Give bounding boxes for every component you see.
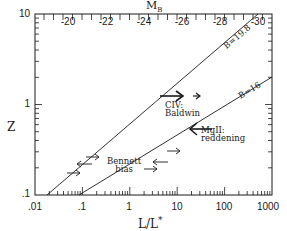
top-axis-label: MB <box>146 1 162 15</box>
y-tick-label: .1 <box>6 189 30 199</box>
annotation-bennett: Bennettbias <box>107 157 141 173</box>
top-tick-label: -30 <box>251 17 265 27</box>
x-tick-label: 100 <box>216 202 233 212</box>
top-tick-label: -20 <box>61 17 75 27</box>
x-tick-label: .01 <box>28 202 42 212</box>
y-axis-label: Z <box>7 122 15 132</box>
x-tick-label: 1000 <box>257 202 279 212</box>
x-tick-label: 1 <box>126 202 132 212</box>
x-axis-ticks <box>49 187 269 195</box>
x-axis-label: L/L* <box>138 214 162 230</box>
top-tick-label: -28 <box>213 17 227 27</box>
annotation-civ: CIV:Baldwin <box>165 101 200 117</box>
top-tick-label: -22 <box>99 17 113 27</box>
top-tick-label: -26 <box>175 17 189 27</box>
bennett-arrows-left <box>67 154 99 176</box>
x-tick-label: .1 <box>78 202 86 212</box>
top-tick-label: -24 <box>137 17 151 27</box>
y-tick-label: 10 <box>6 9 30 19</box>
y-axis-ticks-right <box>265 18 272 168</box>
y-axis-ticks <box>35 18 42 168</box>
y-tick-label: 1 <box>6 99 30 109</box>
x-tick-label: 10 <box>171 202 182 212</box>
annotation-mgii: MgII:reddening <box>201 126 245 142</box>
